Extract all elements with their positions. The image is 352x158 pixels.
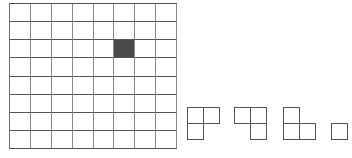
- board-cell: [156, 40, 177, 58]
- board-cell: [114, 77, 135, 95]
- board-cell: [73, 4, 94, 22]
- board-cell: [156, 131, 177, 149]
- board-cell: [52, 40, 73, 58]
- board-cell: [31, 22, 52, 40]
- board-cell: [135, 77, 156, 95]
- board-cell: [52, 131, 73, 149]
- board-cell: [10, 113, 31, 131]
- board-cell: [94, 113, 115, 131]
- board-cell: [10, 131, 31, 149]
- piece-square: [250, 123, 267, 140]
- piece-square: [187, 123, 204, 140]
- board-cell: [31, 95, 52, 113]
- board-cell: [31, 40, 52, 58]
- board-cell: [31, 58, 52, 76]
- piece-square: [283, 123, 300, 140]
- board-cell: [135, 58, 156, 76]
- board-cell: [10, 40, 31, 58]
- board-cell: [156, 58, 177, 76]
- piece-square: [203, 107, 220, 124]
- board-cell: [114, 113, 135, 131]
- board-cell: [114, 131, 135, 149]
- board-cell: [73, 77, 94, 95]
- board-cell: [73, 22, 94, 40]
- board-cell: [31, 4, 52, 22]
- board-cell: [31, 113, 52, 131]
- board-cell: [94, 95, 115, 113]
- board-cell: [94, 22, 115, 40]
- filled-cell: [114, 40, 135, 58]
- board-cell: [135, 95, 156, 113]
- board-cell: [52, 22, 73, 40]
- board-cell: [52, 4, 73, 22]
- board-cell: [52, 113, 73, 131]
- board-cell: [94, 40, 115, 58]
- board-cell: [114, 22, 135, 40]
- board-cell: [94, 131, 115, 149]
- board-cell: [73, 95, 94, 113]
- board-cell: [94, 4, 115, 22]
- board-cell: [156, 4, 177, 22]
- board-cell: [10, 22, 31, 40]
- board-cell: [52, 58, 73, 76]
- board-cell: [94, 77, 115, 95]
- piece-square: [283, 107, 300, 124]
- board-cell: [31, 131, 52, 149]
- board-cell: [156, 77, 177, 95]
- l-tromino-missing-bottom-left: [234, 107, 270, 143]
- board-cell: [10, 58, 31, 76]
- l-tromino-missing-top-right: [283, 107, 319, 143]
- board-cell: [10, 95, 31, 113]
- board-cell: [135, 40, 156, 58]
- board-cell: [114, 58, 135, 76]
- board-cell: [94, 58, 115, 76]
- piece-square: [299, 123, 316, 140]
- l-tromino-missing-bottom-right: [187, 107, 223, 143]
- board-cell: [31, 77, 52, 95]
- board-cell: [73, 131, 94, 149]
- board-cell: [135, 113, 156, 131]
- piece-square: [250, 107, 267, 124]
- board-cell: [52, 95, 73, 113]
- board-cell: [135, 131, 156, 149]
- board-cell: [114, 95, 135, 113]
- board-cell: [156, 95, 177, 113]
- l-tromino-partial: [331, 107, 352, 143]
- board-cell: [10, 77, 31, 95]
- tiling-board: [9, 3, 177, 149]
- board-cell: [156, 113, 177, 131]
- board-cell: [52, 77, 73, 95]
- board-cell: [73, 113, 94, 131]
- board-cell: [10, 4, 31, 22]
- board-cell: [73, 40, 94, 58]
- board-cell: [73, 58, 94, 76]
- board-cell: [135, 4, 156, 22]
- board-cell: [135, 22, 156, 40]
- board-cell: [114, 4, 135, 22]
- piece-square: [234, 107, 251, 124]
- piece-square: [187, 107, 204, 124]
- board-cell: [156, 22, 177, 40]
- piece-square: [331, 123, 348, 140]
